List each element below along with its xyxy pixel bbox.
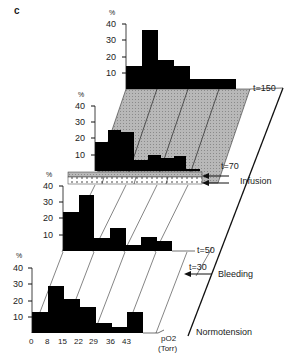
label-infusion: Infusion [240,176,272,186]
svg-text:%: % [78,91,84,98]
svg-text:%: % [16,252,22,259]
layer-t50: 40 30 20 10 % t=50 t=30 Bleeding [43,171,253,279]
stacked-histogram-chart: c 40 30 20 10 % t=150 [0,0,298,360]
svg-text:20: 20 [106,52,116,62]
svg-text:30: 30 [43,197,53,207]
svg-text:20: 20 [75,133,85,143]
svg-text:40: 40 [75,101,85,111]
label-t30: t=30 [189,262,207,272]
svg-text:30: 30 [75,117,85,127]
svg-text:%: % [109,9,115,16]
label-normotension: Normotension [196,327,252,337]
svg-text:20: 20 [13,296,23,306]
x-tick-labels: 0 8 15 22 29 36 43 [29,337,131,346]
svg-text:10: 10 [43,230,53,240]
svg-text:43: 43 [122,337,131,346]
svg-text:40: 40 [43,181,53,191]
svg-text:10: 10 [106,68,116,78]
svg-text:40: 40 [106,19,116,29]
svg-text:%: % [46,171,52,178]
svg-text:30: 30 [13,279,23,289]
label-t70: t=70 [221,161,239,171]
label-t50: t=50 [197,245,215,255]
svg-text:15: 15 [58,337,67,346]
svg-text:36: 36 [106,337,115,346]
svg-text:29: 29 [89,337,98,346]
xlabel-line1: pO2 [161,334,177,343]
panel-label: c [14,5,20,16]
svg-text:10: 10 [13,312,23,322]
svg-text:22: 22 [74,337,83,346]
svg-text:0: 0 [29,337,34,346]
svg-text:8: 8 [45,337,50,346]
label-t150: t=150 [253,83,276,93]
svg-text:40: 40 [13,263,23,273]
svg-text:10: 10 [75,150,85,160]
svg-text:30: 30 [106,35,116,45]
label-bleeding: Bleeding [218,269,253,279]
layer-normotension: 40 30 20 10 % 0 8 15 22 29 36 43 pO2 (To… [13,252,252,353]
svg-text:20: 20 [43,213,53,223]
xlabel-line2: (Torr) [158,344,177,353]
